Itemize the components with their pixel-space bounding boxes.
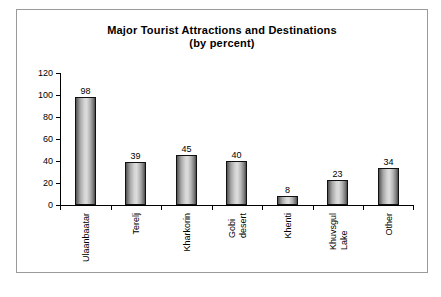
- x-axis-tick: [161, 206, 162, 210]
- x-axis-line: [60, 205, 414, 206]
- y-axis-tick-label: 0: [48, 200, 53, 210]
- chart-screenshot: Major Tourist Attractions and Destinatio…: [0, 0, 441, 297]
- x-axis-category-label-gobi-desert: Gobi desert: [227, 213, 249, 238]
- category-label-line: Khenti: [283, 213, 293, 239]
- x-axis-tick: [111, 206, 112, 210]
- y-axis-line: [60, 73, 61, 206]
- y-axis-tick: [56, 117, 60, 118]
- y-axis-tick-label: 80: [43, 112, 53, 122]
- x-axis-category-label-khenti: Khenti: [283, 213, 293, 239]
- bar-kharkorin: 45: [176, 155, 197, 205]
- bar-value-label: 39: [130, 151, 140, 161]
- bar-value-label: 98: [80, 86, 90, 96]
- bar-khenti: 8: [277, 196, 298, 205]
- bar-value-label: 23: [332, 169, 342, 179]
- category-label-line: Kharkorin: [182, 213, 192, 252]
- x-axis-tick: [313, 206, 314, 210]
- plot-area: 0 20 40 60 80 100 120 98: [60, 73, 414, 206]
- category-label-line: Khuvsgul: [328, 213, 339, 250]
- x-axis-tick: [262, 206, 263, 210]
- chart-title-line-2: (by percent): [17, 37, 427, 50]
- x-axis-category-label-kharkorin: Kharkorin: [182, 213, 192, 252]
- x-axis-tick: [60, 206, 61, 210]
- y-axis-tick-label: 40: [43, 156, 53, 166]
- category-label-line: desert: [238, 213, 249, 238]
- x-axis-category-label-khuvsgul-lake: Khuvsgul Lake: [328, 213, 350, 250]
- y-axis-tick-label: 20: [43, 178, 53, 188]
- category-label-line: Other: [384, 213, 394, 236]
- bar-value-label: 40: [231, 150, 241, 160]
- x-axis-category-label-terelj: Terelj: [131, 213, 141, 235]
- bar-terelj: 39: [125, 162, 146, 205]
- chart-title-line-1: Major Tourist Attractions and Destinatio…: [17, 24, 427, 37]
- bar-gobi-desert: 40: [226, 161, 247, 205]
- y-axis-tick: [56, 139, 60, 140]
- bar-other: 34: [378, 168, 399, 205]
- y-axis-tick: [56, 161, 60, 162]
- bar-value-label: 45: [181, 144, 191, 154]
- x-axis-tick: [363, 206, 364, 210]
- category-label-line: Lake: [339, 213, 350, 250]
- category-label-line: Gobi: [227, 213, 238, 238]
- category-label-line: Terelj: [131, 213, 141, 235]
- chart-title: Major Tourist Attractions and Destinatio…: [17, 24, 427, 50]
- y-axis-tick-label: 100: [38, 90, 53, 100]
- x-axis-category-label-other: Other: [384, 213, 394, 236]
- y-axis-tick: [56, 183, 60, 184]
- bar-ulaanbaatar: 98: [75, 97, 96, 205]
- y-axis-tick: [56, 95, 60, 96]
- x-axis-category-label-ulaanbaatar: Ulaanbaatar: [81, 213, 91, 262]
- x-axis-tick: [212, 206, 213, 210]
- chart-frame: Major Tourist Attractions and Destinatio…: [16, 9, 428, 273]
- y-axis-tick-label: 60: [43, 134, 53, 144]
- bar-value-label: 34: [383, 157, 393, 167]
- bar-value-label: 8: [285, 185, 290, 195]
- bar-khuvsgul-lake: 23: [327, 180, 348, 205]
- y-axis-tick-label: 120: [38, 68, 53, 78]
- y-axis-tick: [56, 73, 60, 74]
- x-axis-tick: [413, 206, 414, 210]
- category-label-line: Ulaanbaatar: [81, 213, 91, 262]
